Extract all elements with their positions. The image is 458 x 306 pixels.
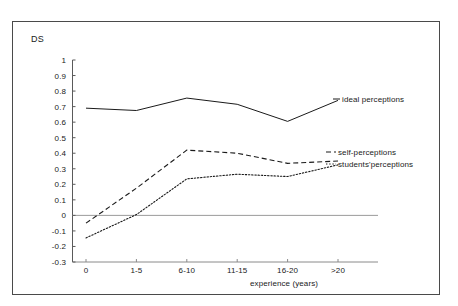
y-tick-label: -0.1 [40,226,66,235]
y-tick-label: 0.5 [40,133,66,142]
y-tick-label: -0.3 [40,258,66,267]
y-tick-label: 0.8 [40,87,66,96]
y-tick-label: 0.2 [40,180,66,189]
y-tick-label: -0.2 [40,242,66,251]
y-tick-label: 0.9 [40,71,66,80]
x-tick-label: 11-15 [215,266,259,275]
y-tick-label: 0.7 [40,102,66,111]
x-tick-label: 16-20 [266,266,310,275]
legend-label-self-perceptions: self-perceptions [338,148,396,157]
y-tick-label: 0.4 [40,149,66,158]
y-tick-label: 0.3 [40,164,66,173]
x-tick-label: 6-10 [165,266,209,275]
y-axis-title: DS [31,34,44,44]
x-axis-title: experience (years) [250,279,318,288]
chart-frame [12,21,440,295]
y-tick-label: 0.6 [40,118,66,127]
legend-label-ideal-perceptions: ideal perceptions [342,95,404,104]
legend-label-students-perceptions: students'perceptions [338,160,413,169]
y-tick-label: 1 [40,56,66,65]
y-tick-label: 0.1 [40,195,66,204]
chart-figure: DS 10.90.80.70.60.50.40.30.20.10-0.1-0.2… [0,0,458,306]
x-tick-label: 1-5 [114,266,158,275]
y-tick-label: 0 [40,211,66,220]
x-tick-label: >20 [316,266,360,275]
x-tick-label: 0 [64,266,108,275]
